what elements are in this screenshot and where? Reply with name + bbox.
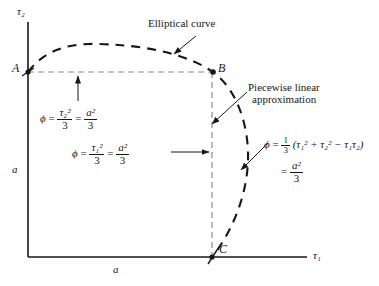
equation-left-fraction-1: τ₂² 3 xyxy=(57,107,72,131)
equation-left-frac2-denominator: 3 xyxy=(84,120,97,132)
equation-middle-frac2-numerator: a² xyxy=(116,142,129,155)
equation-left-phi: ϕ xyxy=(40,112,46,124)
yield-criterion-diagram: τ₂ τ₁ a a A B C Elliptical curve Piecewi… xyxy=(0,0,379,286)
equation-right-body: (τ₁² + τ₂² − τ₁τ₂) xyxy=(293,138,364,150)
equation-middle-fraction-1: τ₁² 3 xyxy=(89,142,104,166)
equation-middle-frac1-numerator: τ₁² xyxy=(89,142,104,155)
point-label-a: A xyxy=(12,62,19,74)
point-marker-a xyxy=(25,69,30,74)
equation-middle-phi: ϕ xyxy=(72,147,78,159)
point-marker-b xyxy=(210,69,216,75)
leader-piecewise xyxy=(212,92,247,124)
y-axis-label: τ₂ xyxy=(17,6,25,17)
equation-middle-equals-2: = xyxy=(107,147,113,159)
equation-middle: ϕ = τ₁² 3 = a² 3 xyxy=(72,142,129,166)
point-label-c: C xyxy=(219,243,227,255)
x-axis-length-label: a xyxy=(113,264,119,275)
annotation-piecewise-line1: Piecewise linear xyxy=(248,82,320,93)
equation-right-line1: ϕ = 1 3 (τ₁² + τ₂² − τ₁τ₂) xyxy=(264,136,363,156)
equation-right-frac2-denominator: 3 xyxy=(290,173,303,185)
equation-left-frac2-numerator: a² xyxy=(84,107,97,120)
point-label-b: B xyxy=(218,62,225,74)
equation-middle-equals-1: = xyxy=(80,147,86,159)
equation-right-phi: ϕ xyxy=(264,138,270,150)
annotation-piecewise-line2: approximation xyxy=(252,94,316,105)
equation-right-fraction-2: a² 3 xyxy=(290,160,303,184)
x-axis-label: τ₁ xyxy=(313,250,321,261)
leader-elliptical-curve xyxy=(174,36,196,54)
annotation-elliptical-curve: Elliptical curve xyxy=(148,18,216,29)
equation-right-equals-1: = xyxy=(272,138,278,150)
equation-left-equals-2: = xyxy=(75,112,81,124)
equation-right-coefficient: 1 3 xyxy=(281,136,290,156)
equation-right-equals-2: = xyxy=(281,165,287,177)
equation-left: ϕ = τ₂² 3 = a² 3 xyxy=(40,107,97,131)
elliptical-curve xyxy=(28,44,248,257)
equation-left-equals-1: = xyxy=(48,112,54,124)
equation-right-coef-denominator: 3 xyxy=(281,146,290,155)
equation-left-fraction-2: a² 3 xyxy=(84,107,97,131)
equation-left-frac1-denominator: 3 xyxy=(57,120,72,132)
equation-middle-fraction-2: a² 3 xyxy=(116,142,129,166)
equation-right-frac2-numerator: a² xyxy=(290,160,303,173)
y-axis-length-label: a xyxy=(12,164,18,175)
equation-middle-frac1-denominator: 3 xyxy=(89,155,104,167)
point-marker-c xyxy=(209,254,214,259)
equation-left-frac1-numerator: τ₂² xyxy=(57,107,72,120)
equation-middle-frac2-denominator: 3 xyxy=(116,155,129,167)
equation-right-line2: = a² 3 xyxy=(281,160,303,184)
